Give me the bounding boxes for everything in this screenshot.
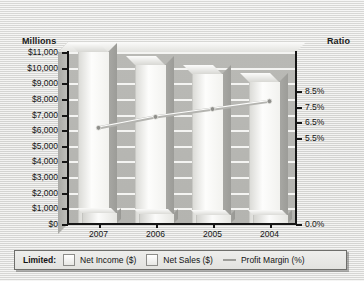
right-axis-title: Ratio: [327, 36, 350, 46]
legend-series-prefix: Limited:: [23, 255, 56, 265]
category-label-2007: 2007: [89, 229, 108, 239]
right-axis-tick: [296, 91, 302, 93]
category-label-2005: 2005: [203, 229, 222, 239]
legend-item-3[interactable]: Profit Margin (%): [223, 255, 305, 265]
category-axis-line: [67, 223, 297, 225]
right-axis-tick-label: 6.5%: [305, 117, 324, 127]
left-axis-tick: [62, 177, 68, 179]
left-axis-tick: [62, 52, 68, 54]
bar-front-face: [192, 74, 223, 224]
left-axis-tick: [62, 115, 68, 117]
right-axis-tick-label: 7.5%: [305, 102, 324, 112]
left-axis-tick: [62, 193, 68, 195]
right-axis-tick-label: 8.5%: [305, 86, 324, 96]
left-axis-tick-label: $6,000: [0, 125, 62, 135]
bar-net-sales: [135, 65, 165, 224]
right-axis-tick-label: 0.0%: [305, 219, 324, 229]
left-axis-tick-label: $9,000: [0, 78, 62, 88]
right-axis-tick: [296, 224, 302, 226]
bar-side-face: [222, 65, 231, 224]
legend-item-1[interactable]: Net Income ($): [63, 254, 136, 266]
left-axis-tick: [62, 83, 68, 85]
legend-swatch-line-gray: [223, 255, 236, 265]
right-axis-tick: [296, 107, 302, 109]
legend-item-2[interactable]: Net Sales ($): [146, 254, 213, 266]
left-axis-title: Millions: [22, 36, 56, 46]
left-axis-tick-label: $0: [0, 219, 62, 229]
legend-item-label: Net Income ($): [80, 255, 136, 265]
bar-front-face: [78, 52, 109, 224]
bar-front-face: [135, 65, 166, 224]
bar-front-face: [249, 82, 280, 224]
left-axis-tick-label: $11,000: [0, 47, 62, 57]
legend-swatch-square-light: [63, 254, 75, 266]
bar-side-face: [165, 56, 174, 224]
left-axis-line: [67, 51, 69, 225]
category-tick: [213, 223, 215, 228]
bar-net-sales: [78, 52, 108, 224]
category-label-2004: 2004: [260, 229, 279, 239]
category-label-2006: 2006: [146, 229, 165, 239]
left-axis-tick-label: $8,000: [0, 94, 62, 104]
category-tick: [156, 223, 158, 228]
left-axis-tick: [62, 68, 68, 70]
legend-item-label: Profit Margin (%): [241, 255, 305, 265]
bar-net-sales: [249, 82, 279, 224]
chart-legend: Limited: Net Income ($)Net Sales ($)Prof…: [14, 250, 347, 270]
right-axis-tick-label: 5.5%: [305, 133, 324, 143]
left-axis-tick-label: $1,000: [0, 203, 62, 213]
bar-net-sales: [192, 74, 222, 224]
left-axis-tick: [62, 146, 68, 148]
bar-side-face: [108, 43, 117, 224]
left-axis-tick-label: $7,000: [0, 110, 62, 120]
left-axis-tick-label: $10,000: [0, 63, 62, 73]
left-axis-tick: [62, 130, 68, 132]
bar-side-face: [279, 73, 288, 224]
left-axis-tick-label: $5,000: [0, 141, 62, 151]
right-axis-tick: [296, 122, 302, 124]
category-tick: [99, 223, 101, 228]
right-axis-tick: [296, 138, 302, 140]
chart-screenshot: Millions Ratio Limited: Net Income ($)Ne…: [0, 0, 364, 281]
left-axis-tick: [62, 99, 68, 101]
left-axis-tick: [62, 161, 68, 163]
left-axis-tick-label: $3,000: [0, 172, 62, 182]
category-tick: [270, 223, 272, 228]
legend-swatch-square-white: [146, 254, 158, 266]
left-axis-tick-label: $2,000: [0, 188, 62, 198]
left-axis-tick-label: $4,000: [0, 156, 62, 166]
left-axis-tick: [62, 224, 68, 226]
plot-area: [68, 52, 296, 224]
legend-item-list: Net Income ($)Net Sales ($)Profit Margin…: [63, 254, 305, 266]
legend-item-label: Net Sales ($): [163, 255, 213, 265]
left-axis-tick: [62, 208, 68, 210]
